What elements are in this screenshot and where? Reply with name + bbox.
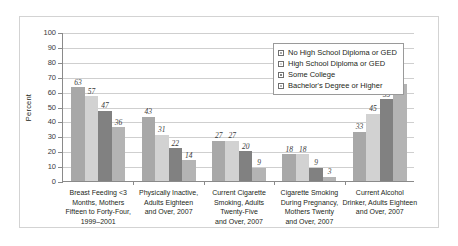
bar: 22: [169, 148, 183, 181]
y-axis-tick-label: 60: [48, 89, 56, 97]
x-axis-separator-tick: [345, 181, 346, 185]
bar-value-label: 33: [356, 123, 364, 131]
bar: 47: [98, 111, 112, 181]
y-axis-tick-label: 30: [48, 134, 56, 142]
legend-swatch-icon: [278, 72, 284, 78]
bar: 9: [309, 168, 323, 181]
bar: 65: [393, 84, 407, 181]
bar-value-label: 43: [145, 108, 153, 116]
bar-group-bars: 2727209: [204, 33, 274, 181]
legend-swatch-icon: [278, 61, 284, 67]
legend-item[interactable]: No High School Diploma or GED: [278, 47, 397, 58]
y-axis-tick-label: 80: [48, 59, 56, 67]
bar-value-label: 18: [299, 146, 307, 154]
bar: 33: [353, 132, 367, 181]
bar-value-label: 14: [185, 152, 193, 160]
bar-value-label: 22: [172, 140, 180, 148]
legend-item[interactable]: High School Diploma or GED: [278, 58, 397, 69]
bar: 36: [112, 127, 126, 181]
x-axis-separator-tick: [133, 181, 134, 185]
y-axis-tick-label: 0: [52, 178, 56, 186]
legend-item-label: Some College: [288, 71, 335, 79]
bar-group: 63574736Breast Feeding <3 Months, Mother…: [63, 33, 133, 181]
bar-value-label: 27: [228, 132, 236, 140]
bar: 3: [323, 177, 337, 181]
bar-group-bars: 43312214: [133, 33, 203, 181]
y-axis-title-text: Percent: [25, 94, 34, 121]
bar: 55: [380, 99, 394, 181]
x-axis-separator-tick: [204, 181, 205, 185]
legend-item-label: High School Diploma or GED: [288, 60, 385, 68]
y-axis-tick-label: 90: [48, 44, 56, 52]
bar: 57: [85, 96, 99, 181]
bar: 43: [142, 117, 156, 181]
legend-item-label: Bachelor's Degree or Higher: [288, 82, 382, 90]
bar: 45: [366, 114, 380, 181]
bar-value-label: 45: [369, 105, 377, 113]
bar: 18: [282, 154, 296, 181]
y-axis-title: Percent: [23, 33, 35, 182]
x-axis-separator-tick: [274, 181, 275, 185]
bar-value-label: 47: [101, 102, 109, 110]
x-axis-category-label: Current Alcohol Drinker, Adults Eighteen…: [332, 188, 428, 217]
bar: 18: [296, 154, 310, 181]
bar-value-label: 9: [314, 159, 318, 167]
bar: 63: [71, 87, 85, 181]
bar-group-bars: 63574736: [63, 33, 133, 181]
bar-value-label: 31: [158, 126, 166, 134]
legend-item[interactable]: Some College: [278, 69, 397, 80]
bar: 27: [212, 141, 226, 181]
y-axis-tick-label: 70: [48, 74, 56, 82]
y-axis-tick-label: 10: [48, 163, 56, 171]
bar-value-label: 27: [215, 132, 223, 140]
legend-swatch-icon: [278, 83, 284, 89]
bar-value-label: 18: [285, 146, 293, 154]
y-axis-tick-label: 100: [43, 29, 56, 37]
legend-item[interactable]: Bachelor's Degree or Higher: [278, 80, 397, 91]
y-axis-tick-label: 20: [48, 148, 56, 156]
bar-value-label: 36: [115, 119, 123, 127]
bar: 20: [239, 151, 253, 181]
bar-value-label: 20: [242, 143, 250, 151]
legend-swatch-icon: [278, 50, 284, 56]
y-axis-tick-label: 50: [48, 104, 56, 112]
bar: 14: [182, 160, 196, 181]
legend-item-label: No High School Diploma or GED: [288, 49, 397, 57]
bar-value-label: 3: [328, 168, 332, 176]
bar: 9: [252, 168, 266, 181]
chart-figure: Percent 010203040506070809010063574736Br…: [19, 16, 439, 228]
bar: 27: [225, 141, 239, 181]
bar-value-label: 57: [88, 88, 96, 96]
bar-group: 43312214Physically Inactive, Adults Eigh…: [133, 33, 203, 181]
bar-value-label: 9: [257, 159, 261, 167]
y-axis-tick: [58, 182, 63, 183]
chart-legend: No High School Diploma or GEDHigh School…: [273, 43, 404, 95]
bar-group: 2727209Current Cigarette Smoking, Adults…: [204, 33, 274, 181]
y-axis-tick-label: 40: [48, 119, 56, 127]
bar: 31: [155, 135, 169, 181]
bar-value-label: 63: [74, 79, 82, 87]
